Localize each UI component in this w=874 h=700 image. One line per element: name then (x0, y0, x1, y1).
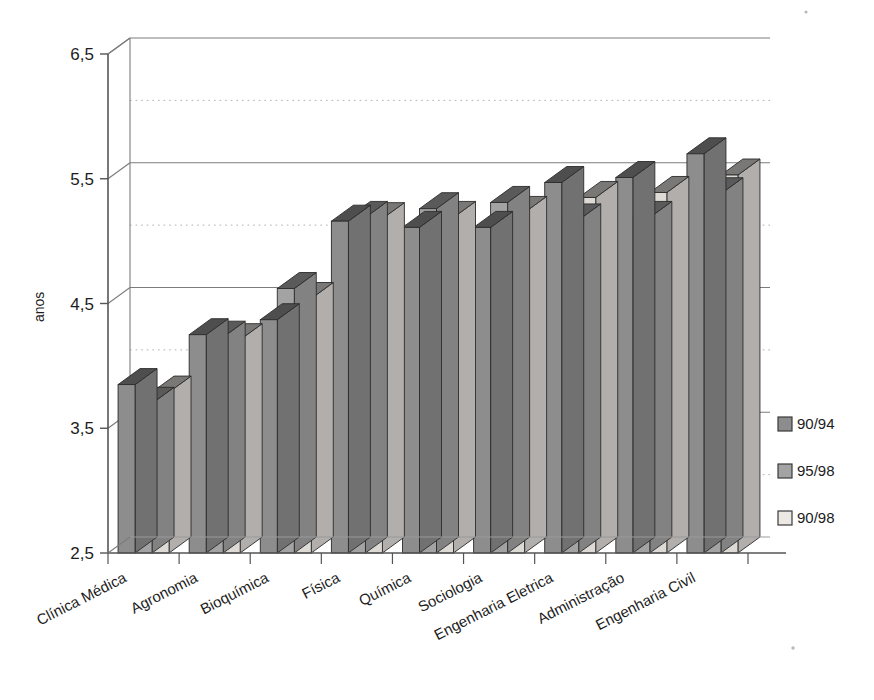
bar-side-face (491, 211, 513, 553)
x-category-label: Engenharia Eletrica (431, 568, 556, 643)
bar-front-face (403, 227, 420, 553)
bar-front-face (474, 227, 491, 553)
scan-speck (791, 646, 794, 649)
bar (474, 211, 513, 553)
x-category-label: Química (356, 568, 414, 609)
x-category-label: Clínica Médica (34, 568, 130, 628)
bar-front-face (687, 154, 704, 553)
gridline-depth-connector (108, 288, 130, 304)
legend-swatch (778, 417, 792, 431)
scan-speck (804, 10, 807, 13)
bar-side-face (420, 211, 442, 553)
bar-chart: 2,53,54,55,56,5 Clínica MédicaAgronomiaB… (0, 0, 874, 700)
bar-front-face (545, 182, 562, 553)
bar-front-face (616, 178, 633, 553)
legend-item: 95/98 (778, 462, 835, 479)
bar-side-face (704, 138, 726, 553)
x-category-label: Bioquímica (197, 568, 271, 617)
x-category-label: Física (299, 568, 343, 602)
bar-side-face (206, 319, 228, 553)
bar (118, 369, 157, 553)
bar-front-face (331, 221, 348, 553)
bar-side-face (135, 369, 157, 553)
bar-side-face (277, 304, 299, 553)
chart-container: 2,53,54,55,56,5 Clínica MédicaAgronomiaB… (0, 0, 874, 700)
legend-label: 90/98 (797, 509, 835, 526)
gridline-depth-connector (108, 163, 130, 179)
y-tick-label: 5,5 (70, 170, 94, 189)
bar (260, 304, 299, 553)
legend-item: 90/94 (778, 415, 835, 432)
bar (403, 211, 442, 553)
y-axis-top-connector (108, 38, 130, 54)
legend-item: 90/98 (778, 509, 835, 526)
bar-side-face (562, 166, 584, 553)
x-tick-marks-group (108, 553, 748, 564)
bar-side-face (633, 162, 655, 553)
bar-front-face (260, 320, 277, 553)
legend-swatch (778, 511, 792, 525)
bar-side-face (348, 205, 370, 553)
bar (545, 166, 584, 553)
bars-group (118, 138, 760, 553)
legend-label: 95/98 (797, 462, 835, 479)
legend-swatch (778, 464, 792, 478)
y-tick-label: 3,5 (70, 419, 94, 438)
category-labels-group: Clínica MédicaAgronomiaBioquímicaFísicaQ… (34, 568, 698, 643)
x-category-label: Agronomia (128, 568, 201, 616)
bar-front-face (118, 385, 135, 553)
y-tick-label: 2,5 (70, 544, 94, 563)
y-tick-labels-group: 2,53,54,55,56,5 (70, 45, 108, 563)
legend-group: 90/9495/9890/98 (778, 415, 835, 526)
bar (687, 138, 726, 553)
bar (331, 205, 370, 553)
y-axis-title: anos (31, 292, 47, 322)
legend-label: 90/94 (797, 415, 835, 432)
bar (616, 162, 655, 553)
bar (189, 319, 228, 553)
y-tick-label: 6,5 (70, 45, 94, 64)
y-tick-label: 4,5 (70, 295, 94, 314)
bar-front-face (189, 335, 206, 553)
